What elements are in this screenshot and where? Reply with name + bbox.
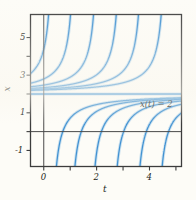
solution-curve-halo [19, 0, 118, 89]
solution-curve-halo [19, 0, 140, 90]
y-tick-label: 3 [20, 70, 25, 80]
solution-curve [19, 0, 29, 59]
x-tick-label: 0 [41, 172, 46, 182]
y-tick-label: -1 [15, 145, 23, 155]
solution-curve [19, 0, 118, 89]
y-tick-label: 5 [20, 32, 25, 42]
x-tick-label: 2 [94, 172, 99, 182]
x-tick-label: 4 [146, 172, 151, 182]
y-tick-label: 1 [20, 107, 25, 117]
figure-container: 024531-1 t x x(t) = 2 [0, 0, 196, 200]
solution-curve [19, 0, 140, 90]
solution-curve-halo [182, 126, 193, 200]
solution-curve [72, 98, 192, 200]
solution-curve-halo [54, 97, 193, 200]
y-axis-label: x [2, 86, 12, 91]
x-axis-label: t [103, 184, 107, 194]
equilibrium-annotation: x(t) = 2 [140, 99, 173, 109]
solution-curve-halo [160, 107, 193, 200]
solution-curve-halo [72, 98, 192, 200]
solution-curve-halo [19, 0, 29, 59]
solution-curve [182, 126, 193, 200]
